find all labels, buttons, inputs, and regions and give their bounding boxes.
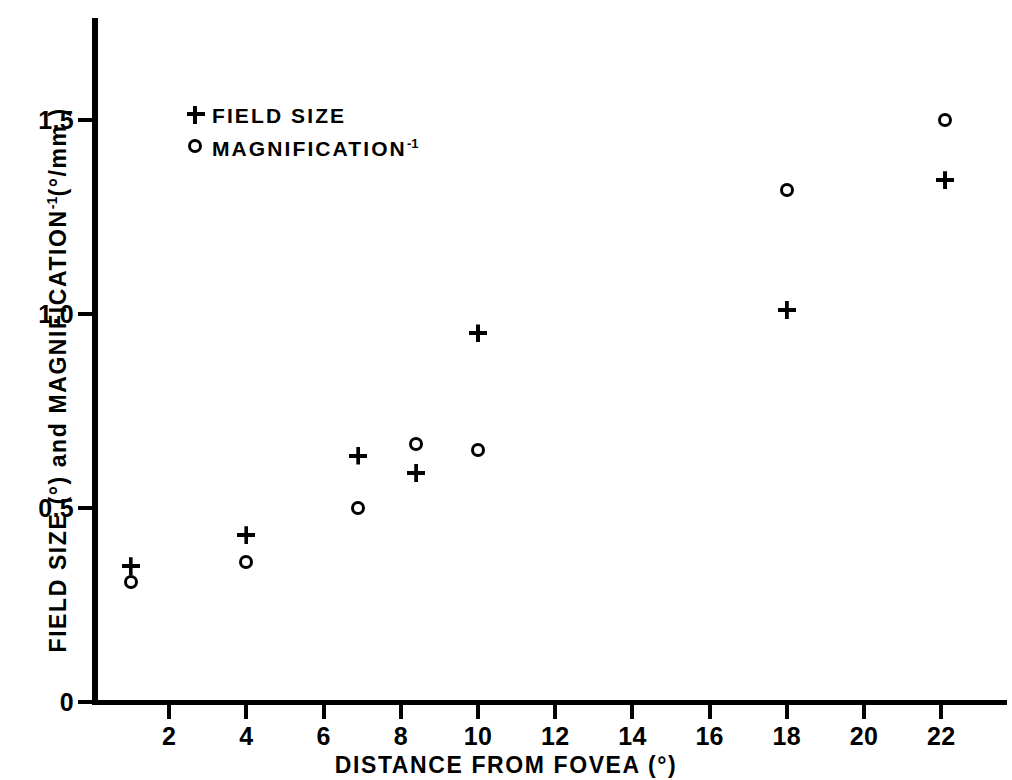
- y-tick-mark: [78, 700, 92, 704]
- data-point-magnification: [938, 113, 952, 127]
- y-axis-title-exponent: -1: [44, 197, 60, 210]
- data-point-field-size: [777, 300, 797, 320]
- x-tick-label: 20: [850, 722, 878, 751]
- data-point-magnification: [239, 555, 253, 569]
- x-tick-mark: [399, 705, 403, 719]
- data-point-field-size: [406, 463, 426, 483]
- x-tick-mark: [630, 705, 634, 719]
- legend-item-label: MAGNIFICATION-1: [212, 136, 418, 161]
- data-point-magnification: [409, 437, 423, 451]
- x-tick-mark: [476, 705, 480, 719]
- y-tick-mark: [78, 506, 92, 510]
- data-point-field-size: [935, 170, 955, 190]
- data-point-field-size: [468, 323, 488, 343]
- legend-item-exponent: -1: [407, 136, 419, 151]
- data-point-field-size: [121, 556, 141, 576]
- circle-glyph: [188, 139, 202, 153]
- data-point-field-size: [236, 525, 256, 545]
- x-tick-mark: [939, 705, 943, 719]
- y-axis-title-tail: (°/mm ): [45, 107, 71, 196]
- plus-marker-icon: [178, 105, 212, 127]
- x-tick-label: 16: [695, 722, 723, 751]
- x-axis-title: DISTANCE FROM FOVEA (°): [0, 752, 1012, 779]
- data-point-magnification: [351, 501, 365, 515]
- legend-item-label: FIELD SIZE: [212, 104, 346, 128]
- x-tick-label: 12: [541, 722, 569, 751]
- x-tick-label: 22: [927, 722, 955, 751]
- x-tick-mark: [167, 705, 171, 719]
- x-tick-mark: [785, 705, 789, 719]
- data-point-magnification: [124, 575, 138, 589]
- legend-item: FIELD SIZE: [178, 100, 418, 132]
- x-tick-mark: [862, 705, 866, 719]
- y-axis-title: FIELD SIZE (°) and MAGNIFICATION-1(°/mm …: [44, 70, 72, 690]
- x-tick-label: 8: [394, 722, 408, 751]
- y-tick-mark: [78, 312, 92, 316]
- x-tick-mark: [708, 705, 712, 719]
- y-tick-mark: [78, 118, 92, 122]
- scatter-chart-figure: 00.51.01.5 246810121416182022 FIELD SIZE…: [0, 0, 1012, 780]
- y-tick-label: 0: [20, 688, 74, 717]
- x-tick-label: 14: [618, 722, 646, 751]
- x-tick-mark: [553, 705, 557, 719]
- x-tick-label: 18: [773, 722, 801, 751]
- plus-glyph: [186, 105, 204, 123]
- data-point-magnification: [471, 443, 485, 457]
- x-axis-line: [92, 700, 1007, 705]
- x-tick-label: 4: [239, 722, 253, 751]
- x-tick-mark: [322, 705, 326, 719]
- y-axis-title-lead: FIELD SIZE (°) and MAGNIFICATION: [45, 209, 71, 652]
- y-axis-line: [92, 18, 98, 705]
- data-point-magnification: [780, 183, 794, 197]
- x-tick-label: 10: [464, 722, 492, 751]
- circle-marker-icon: [178, 139, 212, 157]
- x-tick-label: 2: [162, 722, 176, 751]
- legend-item: MAGNIFICATION-1: [178, 132, 418, 164]
- x-tick-label: 6: [316, 722, 330, 751]
- data-point-field-size: [348, 446, 368, 466]
- x-tick-mark: [244, 705, 248, 719]
- chart-legend: FIELD SIZEMAGNIFICATION-1: [178, 100, 418, 164]
